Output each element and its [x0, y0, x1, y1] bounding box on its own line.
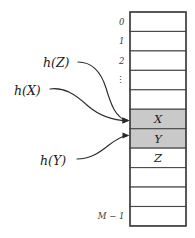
cell-value-z: Z [153, 151, 163, 165]
table-cell-9[interactable] [130, 187, 186, 206]
hash-label-h-of-z: h(Z) [43, 55, 70, 70]
table-cell-10[interactable] [130, 207, 186, 226]
row-index-label-1: 1 [119, 36, 124, 46]
row-index-label-2: 2 [118, 56, 124, 66]
table-cell-2[interactable] [130, 51, 186, 70]
table-cell-1[interactable] [130, 31, 186, 50]
row-index-label-0: 0 [119, 17, 125, 27]
table-cell-8[interactable] [130, 168, 186, 187]
cell-value-x: X [153, 112, 163, 126]
hash-function-labels-layer: h(Z)h(X)h(Y) [14, 55, 70, 168]
figure-canvas: 012⋮M − 1 XYZ h(Z)h(X)h(Y) [0, 0, 195, 238]
table-cell-0[interactable] [130, 12, 186, 31]
arrow-hz-to-x [78, 62, 127, 121]
arrow-hy-to-y-head [123, 133, 130, 139]
hash-label-h-of-y: h(Y) [40, 153, 66, 168]
table-cell-3[interactable] [130, 70, 186, 89]
cell-values-layer: XYZ [153, 112, 163, 165]
hash-label-h-of-x: h(X) [14, 83, 41, 98]
arrow-hx-to-x [50, 89, 127, 121]
row-index-labels-layer: 012⋮M − 1 [97, 17, 125, 222]
arrow-hy-to-y [77, 136, 127, 160]
hash-table-figure: 012⋮M − 1 XYZ h(Z)h(X)h(Y) [0, 0, 195, 238]
row-index-label-3: ⋮ [116, 75, 125, 85]
table-cell-4[interactable] [130, 90, 186, 109]
row-index-label-10: M − 1 [97, 211, 125, 221]
arrow-hx-to-x-head [123, 118, 130, 124]
